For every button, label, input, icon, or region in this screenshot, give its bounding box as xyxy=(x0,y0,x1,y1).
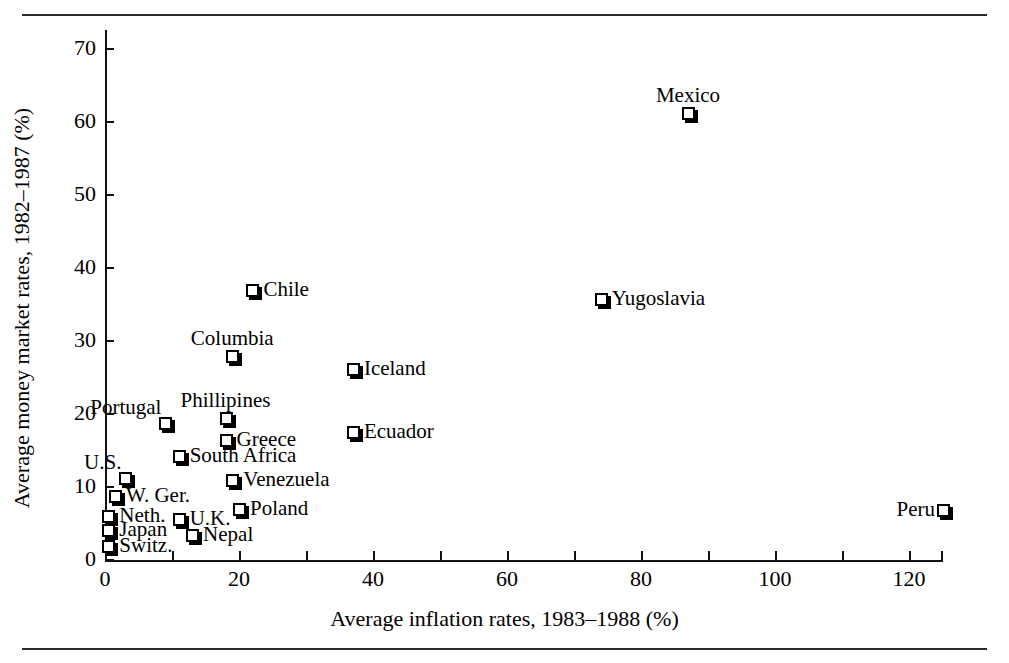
y-tick-label: 60 xyxy=(36,110,96,132)
x-axis-line xyxy=(105,560,943,562)
data-point-marker[interactable] xyxy=(595,293,608,306)
y-tick xyxy=(105,121,114,123)
y-tick-label: 30 xyxy=(36,329,96,351)
x-tick-label: 120 xyxy=(874,568,944,590)
x-tick-label: 100 xyxy=(740,568,810,590)
y-axis-line xyxy=(105,30,107,560)
y-tick-label: 10 xyxy=(36,475,96,497)
data-point-marker[interactable] xyxy=(226,350,239,363)
data-point-label: Chile xyxy=(263,279,309,300)
data-point-marker[interactable] xyxy=(347,363,360,376)
data-point-marker[interactable] xyxy=(173,513,186,526)
y-tick-label: 40 xyxy=(36,256,96,278)
y-tick-label: 50 xyxy=(36,183,96,205)
data-point-marker[interactable] xyxy=(102,510,115,523)
y-tick xyxy=(105,486,114,488)
x-tick-label: 80 xyxy=(606,568,676,590)
data-point-marker[interactable] xyxy=(109,490,122,503)
data-point-marker[interactable] xyxy=(159,417,172,430)
y-axis-title: Average money market rates, 1982–1987 (%… xyxy=(9,58,35,558)
data-point-marker[interactable] xyxy=(102,524,115,537)
x-tick xyxy=(708,551,710,560)
top-rule xyxy=(22,14,987,16)
x-tick-label: 60 xyxy=(472,568,542,590)
x-tick-label: 20 xyxy=(204,568,274,590)
data-point-marker[interactable] xyxy=(233,503,246,516)
x-tick xyxy=(373,551,375,560)
x-tick xyxy=(641,551,643,560)
data-point-label: Iceland xyxy=(364,358,426,379)
data-point-label: Phillipines xyxy=(181,390,271,411)
data-point-label: Portugal xyxy=(90,397,161,418)
x-tick-end xyxy=(941,551,943,560)
y-tick-label: 0 xyxy=(36,548,96,570)
data-point-label: Mexico xyxy=(656,85,720,106)
data-point-label: South Africa xyxy=(190,445,297,466)
x-tick-label: 0 xyxy=(70,568,140,590)
x-axis-title: Average inflation rates, 1983–1988 (%) xyxy=(0,606,1009,632)
data-point-marker[interactable] xyxy=(226,474,239,487)
data-point-marker[interactable] xyxy=(937,504,950,517)
x-tick xyxy=(909,551,911,560)
x-tick xyxy=(574,551,576,560)
y-tick xyxy=(105,48,114,50)
x-tick xyxy=(507,551,509,560)
data-point-marker[interactable] xyxy=(173,450,186,463)
x-tick-label: 40 xyxy=(338,568,408,590)
data-point-label: Poland xyxy=(250,498,308,519)
data-point-label: Peru xyxy=(897,499,936,520)
x-tick xyxy=(239,551,241,560)
data-point-label: Columbia xyxy=(191,328,274,349)
data-point-marker[interactable] xyxy=(246,284,259,297)
data-point-marker[interactable] xyxy=(102,540,115,553)
y-tick xyxy=(105,267,114,269)
figure-container: 010203040506070 020406080100120 MexicoYu… xyxy=(0,0,1009,663)
data-point-marker[interactable] xyxy=(347,426,360,439)
y-tick xyxy=(105,194,114,196)
x-tick xyxy=(775,551,777,560)
bottom-rule xyxy=(22,648,987,650)
data-point-label: Yugoslavia xyxy=(612,288,705,309)
x-tick xyxy=(440,551,442,560)
data-point-marker[interactable] xyxy=(220,412,233,425)
y-tick xyxy=(105,340,114,342)
data-point-label: Ecuador xyxy=(364,421,434,442)
data-point-label: Switz. xyxy=(119,535,172,556)
data-point-marker[interactable] xyxy=(186,529,199,542)
x-tick xyxy=(306,551,308,560)
y-tick-label: 70 xyxy=(36,37,96,59)
data-point-label: U.S. xyxy=(84,452,121,473)
x-tick xyxy=(842,551,844,560)
data-point-marker[interactable] xyxy=(682,107,695,120)
data-point-label: Venezuela xyxy=(243,469,329,490)
data-point-label: Nepal xyxy=(203,524,253,545)
y-tick-label: 20 xyxy=(36,402,96,424)
